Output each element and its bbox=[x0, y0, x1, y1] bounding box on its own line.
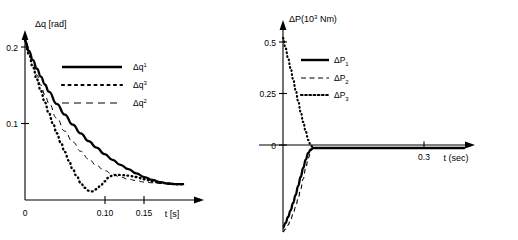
left-x-axis-title: t [s] bbox=[165, 209, 180, 219]
left-x-tick-label-2: 0.15 bbox=[136, 208, 153, 218]
right-x-tick-label-0: 0.3 bbox=[418, 152, 430, 162]
curve-solid bbox=[283, 148, 465, 228]
curve-dotted bbox=[25, 41, 184, 192]
left-data-curves bbox=[25, 41, 184, 192]
right-x-axis-title: t (sec) bbox=[443, 153, 468, 163]
curve-dotted bbox=[283, 38, 465, 148]
left-legend-label-0: Δq1 bbox=[133, 62, 147, 73]
right-chart-svg: 0.5 0.25 0 0.3 ΔP(103 Nm) t (sec) ΔP1 bbox=[259, 0, 518, 240]
right-legend: ΔP1 ΔP2 ΔP3 bbox=[301, 55, 349, 102]
left-y-axis bbox=[22, 30, 29, 200]
right-legend-label-1: ΔP2 bbox=[334, 73, 349, 85]
left-y-axis-arrowhead bbox=[22, 30, 29, 40]
curve-solid bbox=[25, 41, 184, 184]
right-y-axis-arrowhead bbox=[280, 20, 287, 30]
chart-panel-left: 0.2 0.1 0 0.10 0.15 Δq [rad] t [s] Δq1 bbox=[0, 0, 259, 240]
right-legend-label-0: ΔP1 bbox=[334, 55, 349, 67]
right-y-axis bbox=[280, 20, 287, 232]
left-y-tick-label-1: 0.1 bbox=[6, 119, 18, 129]
left-x-axis bbox=[25, 197, 204, 204]
left-x-tick-label-0: 0 bbox=[23, 208, 28, 218]
right-x-axis-arrowhead bbox=[465, 142, 475, 149]
right-y-tick-label-2: 0 bbox=[271, 141, 276, 151]
left-x-tick-label-1: 0.10 bbox=[97, 208, 114, 218]
left-legend-label-1: Δq3 bbox=[133, 80, 147, 91]
left-y-axis-title: Δq [rad] bbox=[35, 19, 67, 29]
right-legend-label-2: ΔP3 bbox=[334, 90, 349, 102]
left-x-axis-arrowhead bbox=[194, 197, 204, 204]
figure-container: 0.2 0.1 0 0.10 0.15 Δq [rad] t [s] Δq1 bbox=[0, 0, 518, 240]
left-chart-svg: 0.2 0.1 0 0.10 0.15 Δq [rad] t [s] Δq1 bbox=[0, 0, 259, 240]
right-data-curves bbox=[283, 38, 465, 232]
curve-dashed bbox=[25, 41, 184, 184]
right-y-tick-label-0: 0.5 bbox=[264, 38, 276, 48]
left-y-tick-label-0: 0.2 bbox=[6, 43, 18, 53]
curve-dashed bbox=[283, 148, 465, 232]
chart-panel-right: 0.5 0.25 0 0.3 ΔP(103 Nm) t (sec) ΔP1 bbox=[259, 0, 518, 240]
left-legend: Δq1 Δq3 Δq2 bbox=[62, 62, 147, 109]
right-y-axis-title: ΔP(103 Nm) bbox=[289, 14, 337, 25]
right-y-tick-label-1: 0.25 bbox=[259, 89, 276, 99]
left-legend-label-2: Δq2 bbox=[133, 98, 147, 109]
